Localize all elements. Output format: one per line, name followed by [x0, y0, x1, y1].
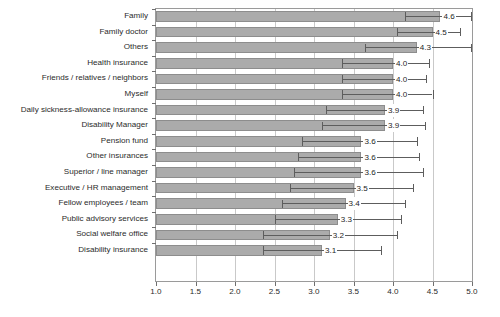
error-bar-cap-low: [294, 168, 295, 177]
chart-row: 3.6: [156, 165, 472, 181]
error-bar-cap-low: [290, 184, 291, 193]
value-label: 4.0: [395, 88, 408, 101]
plot-inner: 4.64.54.34.04.04.03.93.93.63.63.63.53.43…: [156, 9, 472, 281]
x-axis-tick: [156, 282, 157, 286]
y-axis-tick: [152, 9, 156, 10]
y-axis-tick: [152, 56, 156, 57]
category-label: Social welfare office: [0, 226, 152, 242]
chart-row: 4.0: [156, 87, 472, 103]
category-label-column: FamilyFamily doctorOthersHealth insuranc…: [0, 8, 152, 258]
error-bar-cap-high: [471, 12, 472, 21]
y-axis-tick: [152, 25, 156, 26]
error-bar-line: [322, 125, 425, 126]
category-label: Daily sickness-allowance insurance: [0, 102, 152, 118]
error-bar-cap-low: [365, 44, 366, 53]
y-axis-tick: [152, 181, 156, 182]
error-bar-line: [294, 172, 423, 173]
x-axis-tick-label: 2.5: [269, 287, 280, 296]
error-bar-cap-high: [423, 168, 424, 177]
chart-row: 4.0: [156, 71, 472, 87]
category-label: Family doctor: [0, 24, 152, 40]
error-bar-cap-high: [401, 215, 402, 224]
y-axis-tick: [152, 103, 156, 104]
category-label: Public advisory services: [0, 211, 152, 227]
error-bar-cap-high: [433, 90, 434, 99]
error-bar-cap-low: [298, 153, 299, 162]
category-label: Fellow employees / team: [0, 195, 152, 211]
category-label: Other insurances: [0, 148, 152, 164]
value-label: 3.9: [387, 119, 400, 132]
x-axis-tick-label: 2.0: [229, 287, 240, 296]
chart-row: 3.9: [156, 118, 472, 134]
error-bar-cap-low: [405, 12, 406, 21]
y-axis-tick: [152, 227, 156, 228]
category-label: Disability Manager: [0, 117, 152, 133]
x-axis-tick-label: 1.5: [190, 287, 201, 296]
chart-row: 3.6: [156, 134, 472, 150]
value-label: 3.6: [363, 135, 376, 148]
error-bar-cap-high: [413, 184, 414, 193]
category-label: Superior / line manager: [0, 164, 152, 180]
error-bar-cap-high: [425, 122, 426, 131]
value-label: 3.9: [387, 104, 400, 117]
category-label: Myself: [0, 86, 152, 102]
x-axis-tick-label: 4.0: [387, 287, 398, 296]
x-axis-tick-label: 1.0: [150, 287, 161, 296]
error-bar-cap-low: [342, 75, 343, 84]
error-bar-line: [342, 63, 429, 64]
value-label: 3.6: [363, 151, 376, 164]
value-label: 4.0: [395, 73, 408, 86]
value-label: 4.5: [435, 26, 448, 39]
error-bar-cap-low: [263, 231, 264, 240]
error-bar-cap-low: [275, 215, 276, 224]
x-axis-tick: [196, 282, 197, 286]
error-bar-line: [342, 94, 433, 95]
error-bar-cap-low: [342, 90, 343, 99]
error-bar-line: [290, 188, 412, 189]
y-axis-tick: [152, 134, 156, 135]
chart-row: 4.3: [156, 40, 472, 56]
x-axis-tick-label: 3.0: [308, 287, 319, 296]
error-bar-cap-low: [342, 59, 343, 68]
x-axis-tick: [275, 282, 276, 286]
error-bar-cap-low: [302, 137, 303, 146]
error-bar-cap-high: [381, 246, 382, 255]
chart-row: 4.6: [156, 9, 472, 25]
error-bar-line: [282, 203, 404, 204]
value-label: 3.6: [363, 166, 376, 179]
x-axis-tick: [433, 282, 434, 286]
chart-row: 3.5: [156, 181, 472, 197]
x-axis-tick: [393, 282, 394, 286]
value-label: 3.4: [348, 197, 361, 210]
error-bar-cap-high: [405, 200, 406, 209]
x-axis-tick-label: 3.5: [348, 287, 359, 296]
error-bar-line: [298, 157, 419, 158]
bar: [156, 11, 440, 22]
error-bar-cap-high: [417, 137, 418, 146]
error-bar-cap-low: [322, 122, 323, 131]
error-bar-cap-low: [263, 246, 264, 255]
x-axis-tick: [472, 282, 473, 286]
y-axis-tick: [152, 71, 156, 72]
x-axis-tick-label: 5.0: [466, 287, 477, 296]
x-axis-tick: [235, 282, 236, 286]
error-bar-line: [326, 110, 423, 111]
x-axis: 1.01.52.02.53.03.54.04.55.0: [155, 282, 473, 312]
y-axis-tick: [152, 40, 156, 41]
error-bar-cap-high: [397, 231, 398, 240]
chart-row: 3.4: [156, 196, 472, 212]
error-bar-cap-high: [471, 44, 472, 53]
error-bar-line: [263, 235, 397, 236]
error-bar-cap-high: [429, 59, 430, 68]
horizontal-bar-chart: FamilyFamily doctorOthersHealth insuranc…: [0, 0, 500, 317]
error-bar-cap-high: [426, 75, 427, 84]
y-axis-tick: [152, 87, 156, 88]
x-axis-tick: [314, 282, 315, 286]
error-bar-cap-low: [282, 200, 283, 209]
error-bar-line: [275, 219, 401, 220]
category-label: Health insurance: [0, 55, 152, 71]
value-label: 3.3: [340, 213, 353, 226]
value-label: 3.1: [324, 244, 337, 257]
chart-row: 4.0: [156, 56, 472, 72]
chart-row: 3.1: [156, 243, 472, 259]
